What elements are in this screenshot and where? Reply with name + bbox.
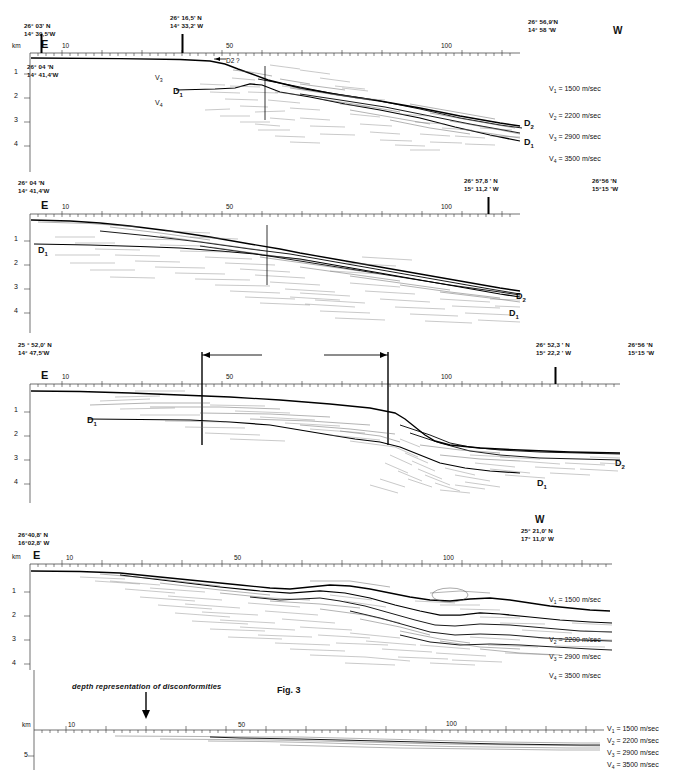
panel4-section-graphic	[0, 505, 683, 670]
profile-panel-5-depth: depth representation of disconformities …	[0, 670, 683, 773]
panel2-section-graphic	[0, 175, 683, 335]
profile-panel-2: 26° 04 'N 14° 41,4'W 26° 57,8 ' N 15° 11…	[0, 175, 683, 335]
profile-panel-3: 25 ° 52,0' N 14° 47,5'W 26° 52,3 ' N 15°…	[0, 335, 683, 505]
panel3-section-graphic	[0, 335, 683, 505]
profile-panel-4: W 26°40,8' N 16°02,8' W 25° 21,0' N 17° …	[0, 505, 683, 670]
profile-panel-1: 26° 03' N 14° 39,5'W 26° 16,5' N 14° 33,…	[0, 0, 683, 175]
panel5-section-graphic	[0, 670, 683, 773]
panel1-section-graphic	[0, 0, 683, 175]
